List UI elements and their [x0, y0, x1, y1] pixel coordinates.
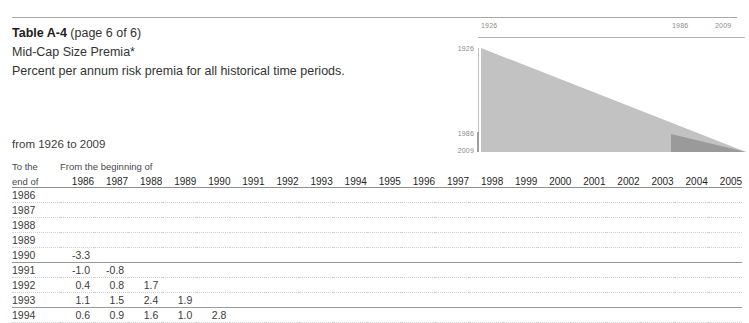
cell-1989-1998	[469, 233, 503, 248]
col-header-1994: 1994	[333, 172, 367, 187]
cell-1986-1994	[333, 188, 367, 203]
cell-1988-1990	[196, 218, 230, 233]
cell-1988-1993	[299, 218, 333, 233]
chart-y-axis-highlight-segment	[477, 132, 479, 152]
cell-1989-1996	[401, 233, 435, 248]
chart-x-tick-1926: 1926	[481, 22, 497, 29]
cell-1990-1988	[128, 248, 162, 263]
chart-plot-area	[481, 48, 746, 152]
col-header-1998: 1998	[469, 172, 503, 187]
col-header-1988: 1988	[128, 172, 162, 187]
cell-1990-1987	[94, 248, 128, 263]
table-row: 19920.40.81.7	[12, 278, 742, 293]
cell-1994-1995	[367, 308, 401, 323]
cell-1988-1986	[60, 218, 94, 233]
cell-1987-1994	[333, 203, 367, 218]
cell-1986-2002	[606, 188, 640, 203]
cell-1991-1995	[367, 263, 401, 278]
cell-1990-2002	[606, 248, 640, 263]
title-block: Table A-4 (page 6 of 6) Mid-Cap Size Pre…	[12, 24, 442, 81]
row-label-1993: 1993	[12, 293, 60, 308]
cell-1987-1995	[367, 203, 401, 218]
cell-1986-1995	[367, 188, 401, 203]
cell-1987-1997	[435, 203, 469, 218]
cell-1988-2001	[571, 218, 605, 233]
full-coverage-triangle	[481, 48, 746, 152]
cell-1993-2000	[537, 293, 571, 308]
col-header-1987: 1987	[94, 172, 128, 187]
cell-1987-1990	[196, 203, 230, 218]
cell-1988-2002	[606, 218, 640, 233]
cell-1991-1988	[128, 263, 162, 278]
cell-1994-1992	[265, 308, 299, 323]
cell-1988-1997	[435, 218, 469, 233]
cell-1992-1990	[196, 278, 230, 293]
cell-1990-1992	[265, 248, 299, 263]
table-header-years-row: end of 1986 1987 1988 1989 1990 1991 199…	[12, 172, 742, 187]
cell-1990-2000	[537, 248, 571, 263]
cell-1993-1988: 2.4	[128, 293, 162, 308]
premia-table-container: To the From the beginning of end of 1986…	[12, 160, 742, 323]
cell-1987-2002	[606, 203, 640, 218]
cell-1991-1999	[503, 263, 537, 278]
col-header-2001: 2001	[571, 172, 605, 187]
cell-1994-1989: 1.0	[162, 308, 196, 323]
cell-1988-1988	[128, 218, 162, 233]
col-header-1993: 1993	[299, 172, 333, 187]
cell-1993-1997	[435, 293, 469, 308]
cell-1991-1997	[435, 263, 469, 278]
cell-1987-1986	[60, 203, 94, 218]
col-header-2002: 2002	[606, 172, 640, 187]
cell-1992-2002	[606, 278, 640, 293]
cell-1994-1998	[469, 308, 503, 323]
cell-1987-1987	[94, 203, 128, 218]
chart-y-tick-2009: 2009	[458, 147, 474, 154]
cell-1991-1987: -0.8	[94, 263, 128, 278]
table-row: 1991-1.0-0.8	[12, 263, 742, 278]
cell-1993-1990	[196, 293, 230, 308]
cell-1994-1997	[435, 308, 469, 323]
cell-1992-1998	[469, 278, 503, 293]
cell-1993-1986: 1.1	[60, 293, 94, 308]
cell-1989-1991	[230, 233, 264, 248]
cell-1991-1992	[265, 263, 299, 278]
cell-1989-2000	[537, 233, 571, 248]
table-body: 19861987198819891990-3.31991-1.0-0.81992…	[12, 188, 742, 323]
cell-1993-2001	[571, 293, 605, 308]
row-label-1989: 1989	[12, 233, 60, 248]
cell-1991-2000	[537, 263, 571, 278]
chart-x-tick-1986: 1986	[672, 22, 688, 29]
table-row: 1988	[12, 218, 742, 233]
cell-1986-1997	[435, 188, 469, 203]
cell-1993-2002	[606, 293, 640, 308]
cell-1986-2003	[640, 188, 674, 203]
cell-1989-1987	[94, 233, 128, 248]
chart-y-tick-1986: 1986	[458, 130, 474, 137]
cell-1988-1998	[469, 218, 503, 233]
cell-1993-1994	[333, 293, 367, 308]
cell-1990-1995	[367, 248, 401, 263]
cell-1994-2005	[708, 308, 742, 323]
cell-1992-2005	[708, 278, 742, 293]
cell-1992-1997	[435, 278, 469, 293]
cell-1986-1998	[469, 188, 503, 203]
table-row: 1989	[12, 233, 742, 248]
cell-1992-1994	[333, 278, 367, 293]
row-label-1987: 1987	[12, 203, 60, 218]
cell-1993-1999	[503, 293, 537, 308]
col-header-1995: 1995	[367, 172, 401, 187]
cell-1989-2002	[606, 233, 640, 248]
cell-1990-1999	[503, 248, 537, 263]
row-label-1990: 1990	[12, 248, 60, 263]
cell-1993-1996	[401, 293, 435, 308]
row-label-1994: 1994	[12, 308, 60, 323]
cell-1990-2005	[708, 248, 742, 263]
cell-1988-1987	[94, 218, 128, 233]
group-header-from-beginning-of: From the beginning of	[60, 160, 742, 172]
cell-1994-1991	[230, 308, 264, 323]
cell-1990-1996	[401, 248, 435, 263]
cell-1986-1993	[299, 188, 333, 203]
cell-1994-1987: 0.9	[94, 308, 128, 323]
cell-1992-1999	[503, 278, 537, 293]
chart-svg	[481, 48, 746, 152]
